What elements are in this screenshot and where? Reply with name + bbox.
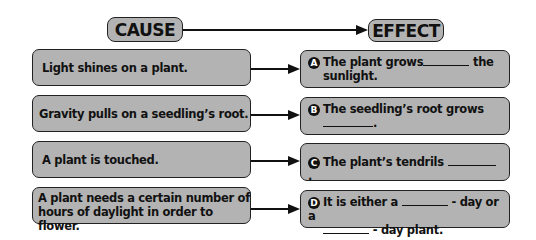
effect-text: . [373, 116, 377, 130]
letter-d-icon: D [308, 197, 320, 209]
cause-box-4: A plant needs a certain number of hours … [32, 187, 251, 224]
effect-box-d: DIt is either a - day or a - day plant. [300, 190, 510, 228]
cause-text: A plant is touched. [42, 153, 159, 167]
letter-b-icon: B [308, 104, 320, 116]
effect-text: The plant’s tendrils [323, 155, 444, 169]
cause-header: CAUSE [107, 17, 183, 42]
header-connector-line [183, 29, 357, 31]
cause-box-1: Light shines on a plant. [32, 49, 251, 86]
answer-blank [423, 55, 469, 66]
effect-text: The seedling’s root grows [323, 102, 484, 116]
effect-text: . [308, 169, 312, 183]
effect-box-b: BThe seedling’s root grows . [300, 97, 510, 135]
cause-text: Light shines on a plant. [42, 61, 188, 75]
effect-text: It is either a [323, 195, 398, 209]
effect-text: The plant grows [323, 55, 423, 69]
connector-line-3 [251, 160, 289, 162]
arrowhead-icon [288, 204, 300, 214]
effect-box-c: CThe plant’s tendrils . [300, 143, 510, 181]
effect-text: the [473, 55, 494, 69]
effect-box-a: AThe plant grows the sunlight. [300, 50, 510, 88]
connector-line-2 [251, 114, 289, 116]
effect-text: - day plant. [373, 223, 443, 237]
answer-blank [323, 223, 369, 234]
cause-text: A plant needs a certain number of [38, 191, 250, 205]
arrowhead-icon [288, 64, 300, 74]
cause-box-3: A plant is touched. [32, 141, 251, 178]
arrowhead-icon [288, 156, 300, 166]
header-arrowhead-icon [356, 25, 368, 35]
answer-blank [448, 155, 496, 166]
cause-box-2: Gravity pulls on a seedling’s root. [32, 95, 251, 132]
letter-c-icon: C [308, 157, 320, 169]
effect-header: EFFECT [368, 19, 444, 42]
connector-line-1 [251, 68, 289, 70]
arrowhead-icon [288, 110, 300, 120]
cause-text: hours of daylight in order to flower. [38, 205, 250, 233]
answer-blank [323, 116, 373, 127]
answer-blank [402, 195, 448, 206]
connector-line-4 [251, 208, 289, 210]
effect-text: sunlight. [323, 69, 378, 83]
letter-a-icon: A [308, 57, 320, 69]
cause-text: Gravity pulls on a seedling’s root. [39, 107, 248, 121]
